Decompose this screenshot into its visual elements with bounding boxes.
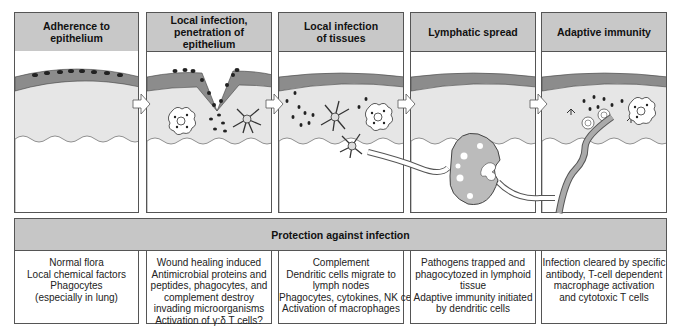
text-line: macrophage activation (542, 280, 666, 292)
epithelium-penetration-illustration (147, 51, 272, 213)
text-line: Activation of macrophages (279, 303, 403, 315)
text-line: by dendritic cells (411, 303, 535, 315)
protection-box-adaptive: Infection cleared by specific antibody, … (541, 250, 667, 324)
stage-title: Local infection, penetration of epitheli… (147, 13, 271, 52)
text-line: invading microorganisms (147, 303, 271, 315)
text-line: tissue (411, 280, 535, 292)
text-line: complement destroy (147, 292, 271, 304)
text-line: phagocytozed in lymphoid (411, 269, 535, 281)
text-line: lymph nodes (279, 280, 403, 292)
protection-header: Protection against infection (14, 218, 667, 251)
stage-title: Local infection of tissues (279, 13, 403, 52)
tissue-infection-illustration (279, 51, 404, 213)
stage-panel-adherence: Adherence to epithelium (14, 12, 139, 213)
text-line: Activation of γ:δ T cells? (147, 315, 271, 327)
text-line: (especially in lung) (15, 292, 138, 304)
text-line: Local chemical factors (15, 269, 138, 281)
stage-title: Lymphatic spread (411, 13, 535, 52)
text-line: and cytotoxic T cells (542, 292, 666, 304)
text-line: Phagocytes, cytokines, NK cells (279, 292, 403, 304)
protection-box-tissue: Complement Dendritic cells migrate to ly… (278, 250, 404, 324)
protection-box-lymphatic: Pathogens trapped and phagocytozed in ly… (410, 250, 536, 324)
text-line: Dendritic cells migrate to (279, 269, 403, 281)
stage-panel-adaptive-immunity: Adaptive immunity (541, 12, 667, 213)
stage-title: Adherence to epithelium (15, 13, 138, 52)
text-line: Phagocytes (15, 280, 138, 292)
text-line: antibody, T-cell dependent (542, 269, 666, 281)
text-line: Pathogens trapped and (411, 257, 535, 269)
adaptive-immunity-illustration (542, 51, 667, 213)
text-line: Complement (279, 257, 403, 269)
lymphatic-spread-illustration (411, 51, 536, 213)
text-line: Adaptive immunity initiated (411, 292, 535, 304)
text-line: Antimicrobial proteins and (147, 269, 271, 281)
protection-box-adherence: Normal flora Local chemical factors Phag… (14, 250, 139, 324)
stage-title: Adaptive immunity (542, 13, 666, 52)
text-line: Infection cleared by specific (542, 257, 666, 269)
text-line: peptides, phagocytes, and (147, 280, 271, 292)
text-line: Normal flora (15, 257, 138, 269)
stage-panel-tissue-infection: Local infection of tissues (278, 12, 404, 213)
stage-panel-lymphatic-spread: Lymphatic spread (410, 12, 536, 213)
stage-panel-penetration: Local infection, penetration of epitheli… (146, 12, 272, 213)
text-line: Wound healing induced (147, 257, 271, 269)
epithelium-adherence-illustration (15, 51, 139, 213)
protection-box-penetration: Wound healing induced Antimicrobial prot… (146, 250, 272, 324)
